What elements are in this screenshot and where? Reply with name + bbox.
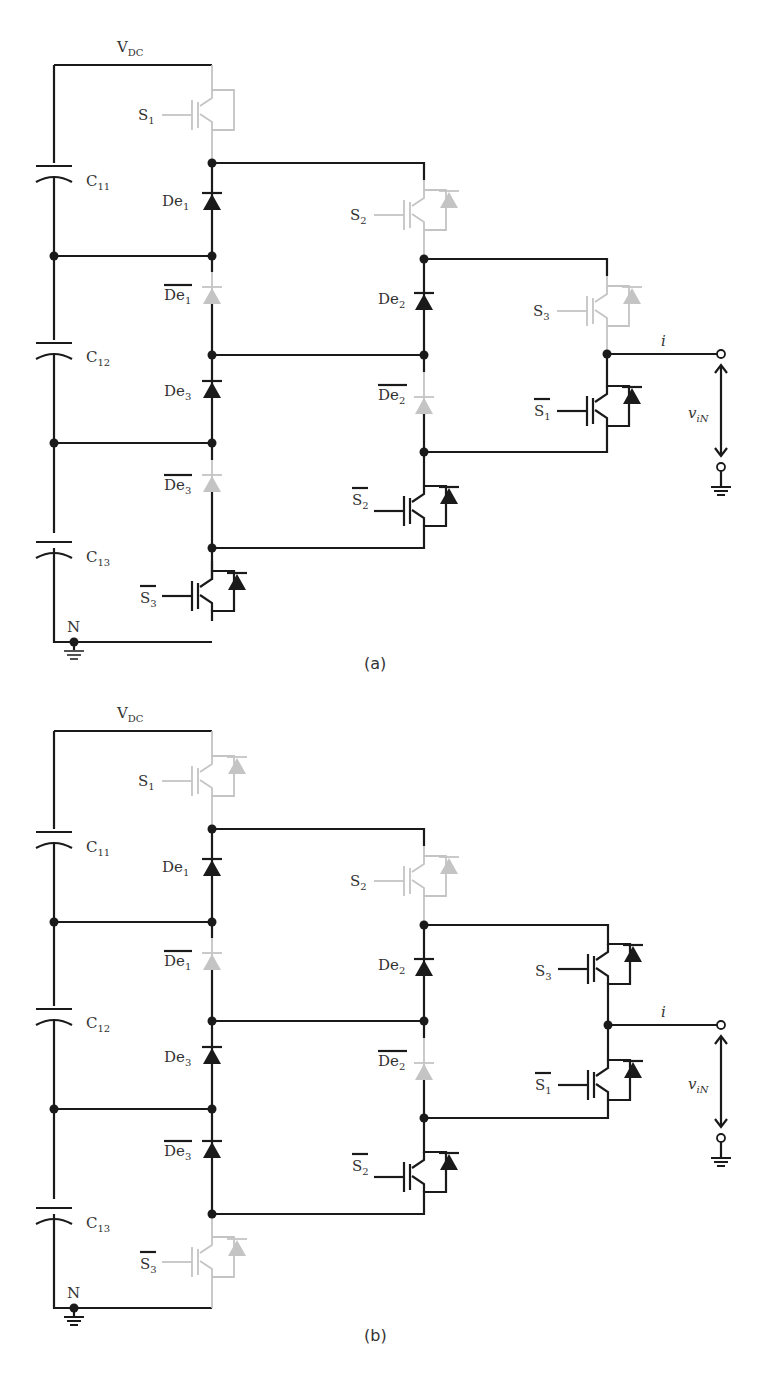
label-s3bar: S3	[140, 589, 157, 609]
ground-icon	[711, 471, 731, 495]
label-voltage: viN	[688, 404, 710, 424]
s2bar-igbt-on	[374, 476, 446, 536]
svg-text:De1: De1	[162, 858, 189, 878]
label-s3: S3	[533, 302, 550, 322]
de2-diode-on	[415, 294, 433, 310]
label-de3: De3	[164, 382, 191, 402]
de1bar-diode-off	[202, 287, 222, 304]
de1-diode-on	[202, 193, 222, 210]
svg-text:S2: S2	[350, 872, 367, 892]
de3bar-diode-on	[203, 1142, 221, 1158]
svg-text:De3: De3	[164, 1142, 191, 1162]
label-c13: C13	[86, 548, 110, 568]
s1bar-igbt-on	[557, 376, 629, 436]
voltage-arrow-icon	[715, 365, 727, 456]
svg-text:De2: De2	[378, 956, 405, 976]
de3bar-diode-off	[202, 475, 222, 492]
svg-text:i: i	[661, 1003, 666, 1021]
s1-igbt-off	[162, 80, 234, 140]
svg-text:S1: S1	[138, 772, 155, 792]
label-de1bar: De1	[164, 286, 191, 306]
label-current: i	[661, 332, 666, 350]
s1bar-igbt-on	[558, 1050, 630, 1110]
output-terminal	[717, 350, 725, 358]
caption-a: (a)	[364, 654, 386, 673]
voltage-arrow-icon	[715, 1036, 727, 1127]
svg-text:C11: C11	[86, 838, 110, 858]
svg-text:viN: viN	[688, 1075, 710, 1095]
label-s1bar: S1	[534, 402, 551, 422]
svg-text:S1: S1	[535, 1076, 552, 1096]
de2bar-diode-off	[415, 398, 433, 414]
svg-text:C13: C13	[86, 1214, 110, 1234]
svg-text:De2: De2	[378, 1052, 405, 1072]
panel-b: VDC S1 C11 De1 De1 C12 De3 De3 C13 S3 N …	[36, 704, 731, 1345]
label-c11: C11	[86, 172, 110, 192]
label-de3bar: De3	[164, 476, 191, 496]
svg-text:N: N	[67, 1284, 80, 1302]
dc-link-wiring	[54, 65, 212, 650]
label-c12: C12	[86, 348, 110, 368]
ground-icon	[64, 651, 84, 659]
label-de2bar: De2	[378, 386, 405, 406]
s3bar-igbt-on	[162, 561, 234, 621]
panel-a: VDC S1 C11 De1 De1 C12 De3 De3 C13 S3 N …	[36, 38, 731, 673]
svg-text:S2: S2	[352, 1157, 369, 1177]
ground-icon	[711, 1142, 731, 1166]
svg-text:C12: C12	[86, 1014, 110, 1034]
svg-text:S3: S3	[535, 962, 552, 982]
label-s2bar: S2	[352, 491, 369, 511]
label-vdc: VDC	[116, 38, 144, 58]
label-de1: De1	[162, 192, 189, 212]
s3bar-diode	[228, 574, 246, 590]
label-s1: S1	[138, 106, 155, 126]
svg-text:VDC: VDC	[116, 704, 144, 724]
s3bar-igbt-off	[162, 1227, 234, 1287]
s3-igbt-on	[558, 934, 630, 994]
junction-dots	[50, 159, 612, 647]
ground-icon	[64, 1317, 84, 1325]
label-neutral: N	[67, 618, 80, 636]
svg-text:S3: S3	[140, 1255, 157, 1275]
circuit-figure: VDC S1 C11 De1 De1 C12 De3 De3 C13 S3 N …	[0, 0, 759, 1382]
caption-b: (b)	[364, 1326, 387, 1345]
de3-diode-on	[202, 381, 222, 398]
svg-text:De3: De3	[164, 1048, 191, 1068]
label-s2: S2	[350, 206, 367, 226]
label-de2: De2	[378, 290, 405, 310]
svg-text:De1: De1	[164, 952, 191, 972]
